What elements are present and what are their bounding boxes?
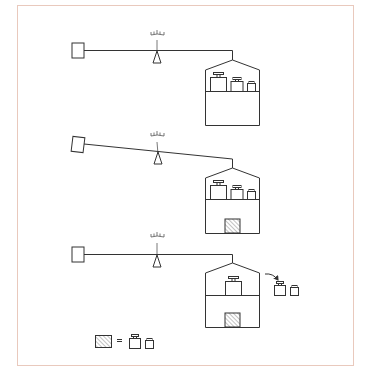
legend-hatched-block <box>96 336 112 348</box>
fulcrum-triangle <box>154 152 162 164</box>
weight-container <box>206 60 260 126</box>
weight-medium <box>231 186 243 200</box>
hatched-block <box>225 219 240 233</box>
legend <box>96 335 154 349</box>
hatched-block <box>225 313 240 327</box>
weight-large <box>211 73 227 92</box>
move-arrow-icon <box>265 274 278 280</box>
fulcrum-triangle <box>153 51 161 63</box>
dial-icon <box>151 232 164 254</box>
weight-small <box>248 190 256 200</box>
fulcrum-triangle <box>153 255 161 267</box>
panel-1 <box>72 30 260 126</box>
dial-icon <box>151 30 164 50</box>
counterweight-box <box>72 247 84 262</box>
removed-weight-medium <box>275 282 286 296</box>
panel-3 <box>72 232 299 328</box>
weight-large <box>211 181 227 200</box>
weight-medium <box>231 78 243 92</box>
counterweight-box <box>72 43 84 58</box>
balance-diagram <box>0 0 366 377</box>
weight-large <box>226 277 242 296</box>
legend-weight-small <box>146 339 154 349</box>
panel-2 <box>71 131 259 234</box>
legend-weight-medium <box>130 335 141 349</box>
counterweight-box <box>71 136 85 152</box>
weight-small <box>248 82 256 92</box>
figure-frame <box>18 6 354 366</box>
removed-weight-small <box>291 286 299 296</box>
